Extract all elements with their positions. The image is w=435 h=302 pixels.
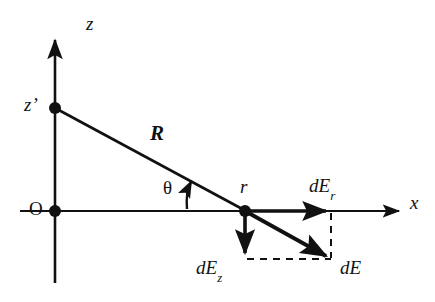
point-label-r: r	[240, 177, 247, 196]
point-label-z-prime: z’	[24, 95, 38, 114]
theta-angle-marker	[187, 182, 191, 209]
vector-label-dE: dE	[340, 258, 361, 277]
point-origin	[49, 205, 61, 217]
vector-label-dE-r: dEr	[309, 176, 335, 200]
segment-label-R: R	[150, 123, 164, 144]
vector-label-dE-r-main: dE	[309, 175, 330, 196]
point-field-r	[239, 205, 251, 217]
physics-vector-diagram: z z’ O R θ r dEr dEz dE x	[0, 0, 435, 302]
dE-arrow	[245, 211, 326, 256]
vector-label-dE-z-main: dE	[196, 257, 217, 278]
theta-arc-arrow	[187, 182, 191, 209]
angle-label-theta: θ	[163, 178, 172, 197]
origin-label: O	[29, 199, 43, 218]
diagram-canvas	[0, 0, 435, 302]
vector-label-dE-r-sub: r	[330, 188, 335, 203]
axis-label-z: z	[86, 14, 93, 33]
vector-dE	[245, 211, 326, 256]
vector-label-dE-z-sub: z	[217, 270, 222, 285]
point-source-z-prime	[49, 102, 61, 114]
vector-label-dE-z: dEz	[196, 258, 222, 282]
axis-label-x: x	[410, 193, 418, 212]
